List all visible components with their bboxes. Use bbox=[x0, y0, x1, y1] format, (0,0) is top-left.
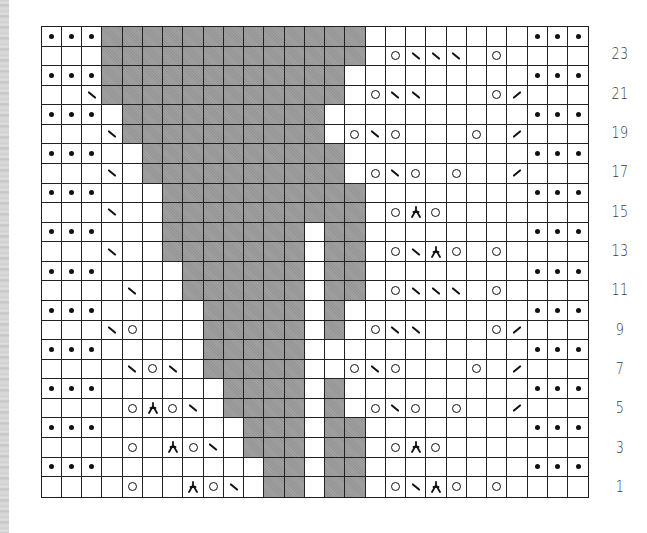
chart-cell-shaded bbox=[143, 86, 163, 106]
chart-cell bbox=[568, 379, 588, 399]
chart-cell bbox=[548, 360, 568, 380]
chart-cell-shaded bbox=[244, 242, 264, 262]
purl-dot-icon bbox=[49, 269, 54, 274]
left-decrease-slash-icon bbox=[108, 208, 117, 216]
chart-cell-shaded bbox=[325, 418, 345, 438]
chart-cell-shaded bbox=[244, 144, 264, 164]
purl-dot-icon bbox=[89, 425, 94, 430]
chart-cell bbox=[548, 125, 568, 145]
chart-cell bbox=[204, 477, 224, 497]
chart-cell bbox=[386, 203, 406, 223]
chart-cell bbox=[325, 125, 345, 145]
purl-dot-icon bbox=[535, 269, 540, 274]
chart-cell bbox=[82, 105, 102, 125]
yarn-over-circle-icon bbox=[492, 482, 501, 491]
chart-cell-shaded bbox=[163, 164, 183, 184]
chart-cell bbox=[366, 458, 386, 478]
chart-cell-shaded bbox=[224, 360, 244, 380]
chart-cell bbox=[42, 262, 62, 282]
chart-cell bbox=[62, 458, 82, 478]
chart-cell bbox=[123, 321, 143, 341]
chart-cell bbox=[507, 144, 527, 164]
chart-cell bbox=[406, 477, 426, 497]
chart-cell bbox=[507, 340, 527, 360]
chart-cell bbox=[62, 301, 82, 321]
row-label-19: 19 bbox=[603, 124, 637, 142]
chart-cell bbox=[386, 242, 406, 262]
chart-cell bbox=[487, 438, 507, 458]
chart-cell-shaded bbox=[244, 438, 264, 458]
chart-cell bbox=[143, 477, 163, 497]
chart-cell bbox=[467, 281, 487, 301]
chart-cell bbox=[82, 379, 102, 399]
chart-cell bbox=[62, 105, 82, 125]
purl-dot-icon bbox=[555, 386, 560, 391]
chart-cell-shaded bbox=[305, 164, 325, 184]
chart-cell bbox=[305, 477, 325, 497]
chart-cell-shaded bbox=[244, 223, 264, 243]
double-decrease-icon bbox=[430, 481, 442, 493]
chart-cell bbox=[507, 399, 527, 419]
purl-dot-icon bbox=[576, 112, 581, 117]
chart-cell bbox=[386, 47, 406, 67]
chart-cell bbox=[42, 86, 62, 106]
yarn-over-circle-icon bbox=[391, 482, 400, 491]
left-decrease-slash-icon bbox=[391, 326, 400, 334]
chart-cell bbox=[366, 223, 386, 243]
chart-cell bbox=[507, 379, 527, 399]
yarn-over-circle-icon bbox=[209, 482, 218, 491]
chart-cell bbox=[123, 458, 143, 478]
chart-cell bbox=[447, 301, 467, 321]
chart-cell bbox=[82, 340, 102, 360]
chart-cell-shaded bbox=[305, 27, 325, 47]
chart-cell bbox=[345, 86, 365, 106]
chart-cell bbox=[42, 340, 62, 360]
purl-dot-icon bbox=[555, 464, 560, 469]
chart-cell bbox=[528, 164, 548, 184]
chart-cell bbox=[386, 418, 406, 438]
purl-dot-icon bbox=[49, 229, 54, 234]
chart-cell-shaded bbox=[143, 125, 163, 145]
chart-cell-shaded bbox=[244, 86, 264, 106]
chart-cell-shaded bbox=[123, 27, 143, 47]
purl-dot-icon bbox=[69, 269, 74, 274]
chart-cell bbox=[548, 281, 568, 301]
chart-cell-shaded bbox=[285, 321, 305, 341]
left-decrease-slash-icon bbox=[128, 365, 137, 373]
chart-cell-shaded bbox=[224, 184, 244, 204]
yarn-over-circle-icon bbox=[371, 90, 380, 99]
chart-cell bbox=[467, 184, 487, 204]
chart-cell bbox=[366, 340, 386, 360]
chart-cell bbox=[366, 125, 386, 145]
chart-cell bbox=[406, 184, 426, 204]
chart-cell bbox=[366, 27, 386, 47]
chart-cell-shaded bbox=[163, 223, 183, 243]
purl-dot-icon bbox=[69, 73, 74, 78]
chart-cell-shaded bbox=[183, 66, 203, 86]
left-decrease-slash-icon bbox=[108, 169, 117, 177]
chart-cell-shaded bbox=[102, 47, 122, 67]
right-decrease-slash-icon bbox=[512, 326, 521, 334]
chart-cell bbox=[82, 66, 102, 86]
chart-cell bbox=[528, 360, 548, 380]
chart-cell bbox=[406, 399, 426, 419]
chart-cell bbox=[406, 321, 426, 341]
chart-cell-shaded bbox=[264, 144, 284, 164]
chart-cell bbox=[487, 86, 507, 106]
chart-cell bbox=[426, 281, 446, 301]
chart-cell bbox=[528, 242, 548, 262]
chart-cell bbox=[507, 86, 527, 106]
chart-cell bbox=[123, 203, 143, 223]
chart-cell bbox=[507, 262, 527, 282]
chart-cell-shaded bbox=[345, 477, 365, 497]
chart-cell bbox=[528, 399, 548, 419]
chart-cell-shaded bbox=[325, 184, 345, 204]
chart-cell bbox=[143, 340, 163, 360]
chart-cell bbox=[568, 438, 588, 458]
purl-dot-icon bbox=[555, 151, 560, 156]
chart-cell bbox=[62, 379, 82, 399]
chart-cell bbox=[102, 281, 122, 301]
yarn-over-circle-icon bbox=[128, 443, 137, 452]
chart-cell bbox=[102, 164, 122, 184]
chart-cell-shaded bbox=[264, 477, 284, 497]
